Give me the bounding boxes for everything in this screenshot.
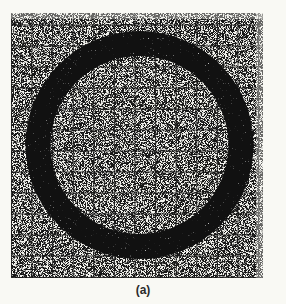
dark-ring [0, 0, 286, 304]
figure: (a) [0, 0, 286, 304]
figure-caption: (a) [0, 283, 286, 297]
top-edge-fade [11, 13, 263, 19]
right-edge-fade [256, 13, 266, 278]
noisy-ring-image [0, 0, 286, 304]
